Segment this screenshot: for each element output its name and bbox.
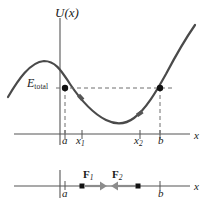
tick-label-x1: x1 [76, 135, 85, 147]
upper-x-axis-label: x [194, 130, 199, 141]
force-arrow-f2 [111, 182, 135, 191]
lower-tick-label-b: b [158, 188, 164, 199]
y-axis-label: U(x) [55, 6, 79, 19]
potential-energy-figure: U(x) Etotal a x1 x2 b x F1 F2 a b x [0, 0, 213, 209]
tick-label-a: a [62, 135, 68, 146]
turning-point-dot-a [62, 85, 68, 91]
lower-tick-label-a: a [62, 188, 68, 199]
tick-label-x2: x2 [134, 135, 143, 147]
force-label-f1: F1 [83, 169, 93, 181]
force-label-f1-subscript: 1 [90, 173, 94, 182]
energy-level-label: Etotal [27, 77, 48, 90]
energy-level-subscript: total [34, 82, 48, 91]
force-label-f2-base: F [112, 168, 119, 180]
particle-marker-x2 [136, 184, 141, 189]
particle-marker-x1 [80, 184, 85, 189]
lower-x-axis-label: x [194, 181, 199, 192]
force-arrow-f1 [84, 182, 107, 191]
potential-energy-curve [8, 25, 195, 123]
force-label-f2: F2 [112, 169, 122, 181]
force-label-f1-base: F [83, 168, 90, 180]
figure-canvas [0, 0, 213, 209]
tick-label-b: b [158, 135, 164, 146]
tick-label-x1-subscript: 1 [81, 139, 85, 148]
force-label-f2-subscript: 2 [119, 173, 123, 182]
tick-label-x2-subscript: 2 [139, 139, 143, 148]
turning-point-dot-b [157, 85, 163, 91]
